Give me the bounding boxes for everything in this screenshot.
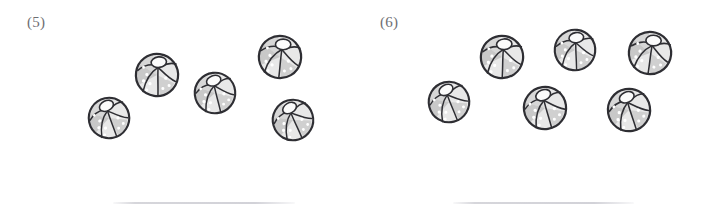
beach-ball-graphic xyxy=(626,29,674,77)
beach-ball-graphic xyxy=(605,86,653,134)
beach-ball-graphic xyxy=(552,27,598,73)
answer-line[interactable] xyxy=(453,202,634,204)
ball-group-2: (6) xyxy=(0,0,710,213)
beach-ball-icon xyxy=(521,84,569,132)
beach-ball-graphic xyxy=(478,33,526,81)
beach-ball-icon xyxy=(552,27,598,73)
beach-ball-graphic xyxy=(426,79,472,125)
beach-ball-icon xyxy=(478,33,526,81)
group-label: (6) xyxy=(380,15,398,30)
beach-ball-graphic xyxy=(521,84,569,132)
worksheet-canvas: (5) xyxy=(0,0,710,213)
beach-ball-icon xyxy=(626,29,674,77)
beach-ball-icon xyxy=(605,86,653,134)
beach-ball-icon xyxy=(426,79,472,125)
